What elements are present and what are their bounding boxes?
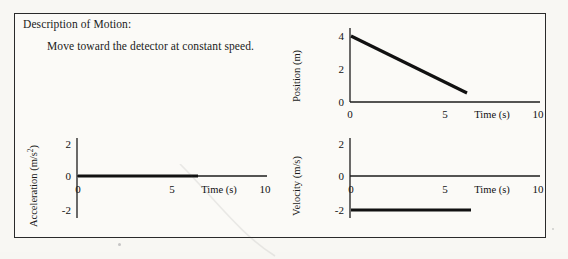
position-ylabel: Position (m): [291, 49, 303, 102]
velocity-xtick-10: 10: [533, 183, 545, 195]
acceleration-ylabel-tail: ): [28, 144, 40, 148]
acceleration-xtick-0: 0: [75, 183, 81, 195]
acceleration-graph: Acceleration (m/s2) 2 0 -2 0 5 10 Time (…: [15, 126, 265, 238]
velocity-xlabel: Time (s): [474, 184, 510, 196]
acceleration-ylabel-base: Acceleration (m/s: [28, 152, 40, 227]
position-data-line: [351, 36, 467, 93]
description-title: Description of Motion:: [23, 18, 131, 30]
velocity-graph: Velocity (m/s) 2 0 -2 0 5 10 Time (s): [287, 126, 537, 238]
velocity-xtick-0: 0: [348, 183, 354, 195]
acceleration-ytick-neg2: -2: [62, 204, 71, 216]
position-ytick-0: 0: [339, 96, 345, 108]
velocity-ytick-neg2: -2: [335, 204, 344, 216]
description-text: Move toward the detector at constant spe…: [47, 40, 254, 52]
velocity-ytick-0: 0: [339, 170, 345, 182]
scan-speck: [118, 243, 121, 246]
acceleration-ylabel: Acceleration (m/s2): [26, 144, 40, 227]
scan-speck: [552, 228, 554, 230]
acceleration-xlabel: Time (s): [201, 184, 237, 196]
position-xlabel: Time (s): [474, 109, 510, 121]
acceleration-xtick-5: 5: [169, 183, 175, 195]
position-ytick-4: 4: [339, 30, 345, 42]
acceleration-ytick-2: 2: [66, 138, 72, 150]
acceleration-xtick-10: 10: [260, 183, 272, 195]
position-xtick-10: 10: [533, 108, 545, 120]
velocity-xtick-5: 5: [442, 183, 448, 195]
position-ytick-2: 2: [339, 63, 345, 75]
position-xtick-0: 0: [347, 108, 353, 120]
velocity-ylabel: Velocity (m/s): [291, 156, 303, 216]
position-graph: Position (m) 4 2 0 0 5 10 Time (s): [287, 14, 537, 126]
acceleration-ytick-0: 0: [66, 170, 72, 182]
figure-panel: Description of Motion: Move toward the d…: [14, 13, 546, 238]
position-xtick-5: 5: [442, 108, 448, 120]
velocity-ytick-2: 2: [339, 138, 345, 150]
